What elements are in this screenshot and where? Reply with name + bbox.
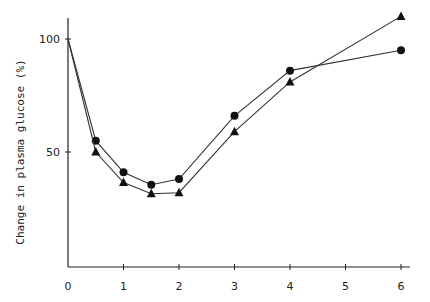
data-series [68, 11, 406, 197]
x-tick-label: 1 [120, 280, 127, 293]
axes [68, 18, 410, 267]
circle-marker [286, 67, 294, 75]
y-tick-label: 100 [39, 33, 60, 46]
x-tick-label: 4 [287, 280, 294, 293]
y-ticks: 50100 [39, 33, 71, 159]
circle-marker [397, 46, 405, 54]
circle-marker [231, 112, 239, 120]
y-tick-label: 50 [46, 146, 60, 159]
x-ticks: 0123456 [65, 264, 405, 293]
x-tick-label: 6 [398, 280, 405, 293]
triangle-marker [397, 11, 406, 20]
triangle-marker [91, 147, 100, 156]
line-chart: 50100 0123456 Change in plasma glucose (… [0, 0, 430, 302]
x-tick-label: 5 [342, 280, 349, 293]
x-tick-label: 0 [65, 280, 72, 293]
circle-marker [175, 175, 183, 183]
x-tick-label: 3 [231, 280, 238, 293]
y-axis-label: Change in plasma glucose (%) [14, 59, 27, 244]
circle-marker [120, 168, 128, 176]
circle-marker [147, 181, 155, 189]
x-tick-label: 2 [176, 280, 183, 293]
triangle-marker [230, 127, 239, 136]
triangle-marker [286, 77, 295, 86]
series-line [68, 16, 401, 193]
series-circles [68, 39, 405, 189]
series-triangles [68, 11, 406, 197]
